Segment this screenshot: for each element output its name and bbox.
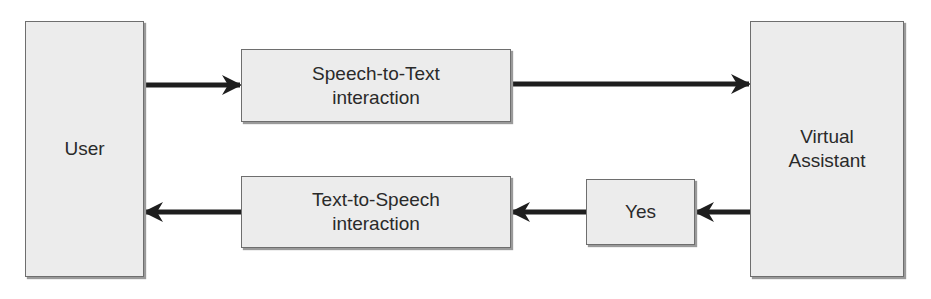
va-label-line1: Virtual: [788, 125, 865, 149]
speech-to-text-node: Speech-to-Text interaction: [241, 49, 511, 122]
virtual-assistant-node: Virtual Assistant: [750, 21, 904, 277]
text-to-speech-node: Text-to-Speech interaction: [241, 176, 511, 248]
va-label-line2: Assistant: [788, 149, 865, 173]
yes-node: Yes: [586, 179, 695, 245]
user-node: User: [25, 21, 144, 277]
stt-label-line1: Speech-to-Text: [312, 62, 440, 86]
tts-label-line1: Text-to-Speech: [312, 188, 440, 212]
user-label: User: [64, 137, 104, 161]
tts-label-line2: interaction: [312, 212, 440, 236]
yes-label: Yes: [625, 200, 656, 224]
stt-label-line2: interaction: [312, 86, 440, 110]
